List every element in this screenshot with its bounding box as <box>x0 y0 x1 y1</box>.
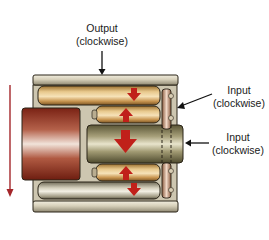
central-shaft <box>87 125 183 163</box>
output-label: Output (clockwise) <box>62 22 142 48</box>
motion-arrow <box>7 85 14 197</box>
input-lower-label-line1: Input <box>208 131 268 144</box>
output-label-line1: Output <box>62 22 142 35</box>
output-label-line2: (clockwise) <box>62 35 142 48</box>
output-arrow <box>99 51 106 75</box>
upper-inner-roller <box>92 106 160 123</box>
input-upper-label-line1: Input <box>210 84 268 97</box>
left-block <box>22 108 80 180</box>
input-lower-label: Input (clockwise) <box>208 131 268 157</box>
lower-inner-roller <box>92 164 160 181</box>
input-lower-label-line2: (clockwise) <box>208 144 268 157</box>
input-lower-arrow <box>185 140 209 147</box>
input-upper-label-line2: (clockwise) <box>210 97 268 110</box>
input-upper-arrow <box>177 94 212 109</box>
input-upper-label: Input (clockwise) <box>210 84 268 110</box>
top-roller <box>38 86 160 105</box>
bottom-roller <box>38 182 160 199</box>
